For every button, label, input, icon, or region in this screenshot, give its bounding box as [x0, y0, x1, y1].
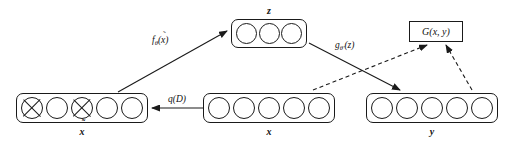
layer-y[interactable] [366, 93, 498, 123]
edge-disc-real [313, 45, 427, 90]
unit [121, 97, 143, 119]
layer-x-tilde[interactable] [16, 93, 148, 123]
unit [308, 97, 330, 119]
layer-x[interactable] [203, 93, 335, 123]
layer-label-z: z [231, 5, 307, 16]
unit [281, 23, 302, 44]
unit [471, 97, 493, 119]
discriminator-box[interactable]: G(x, y) [409, 21, 463, 42]
unit [46, 97, 68, 119]
unit [258, 97, 280, 119]
edge-decode [309, 43, 400, 90]
unit [233, 97, 255, 119]
unit [283, 97, 305, 119]
layer-label-x: x [203, 126, 335, 137]
unit [396, 97, 418, 119]
architecture-diagram: zx̃xy G(x, y) q(D)fθ(x̃)gθ'(z) [0, 0, 509, 145]
unit [371, 97, 393, 119]
edge-label-encode: fθ(x̃) [152, 35, 168, 46]
edge-label-decode: gθ'(z) [335, 40, 354, 51]
edge-disc-fake [446, 45, 472, 90]
edge-encode [118, 31, 227, 92]
dashed-edges [313, 45, 472, 90]
layer-label-x-tilde: x̃ [16, 126, 148, 137]
discriminator-label: G(x, y) [422, 26, 450, 37]
edge-label-corrupt: q(D) [168, 94, 186, 104]
layer-z[interactable] [231, 19, 307, 48]
unit [208, 97, 230, 119]
unit [236, 23, 257, 44]
unit [259, 23, 280, 44]
unit [96, 97, 118, 119]
unit-corrupted [71, 97, 93, 119]
unit-corrupted [21, 97, 43, 119]
layer-label-y: y [366, 126, 498, 137]
unit [421, 97, 443, 119]
unit [446, 97, 468, 119]
